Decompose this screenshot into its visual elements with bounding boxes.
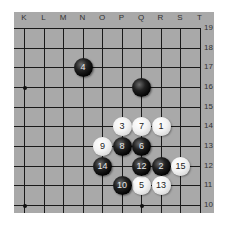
row-label: 19 (204, 23, 220, 33)
row-label: 16 (204, 82, 220, 92)
row-label: 13 (204, 141, 220, 151)
black-stone[interactable]: 4 (74, 58, 93, 77)
row-label: 10 (204, 200, 220, 210)
column-label: Q (134, 13, 148, 23)
row-label: 12 (204, 161, 220, 171)
column-label: K (17, 13, 31, 23)
white-stone[interactable]: 1 (152, 117, 171, 136)
star-point-icon (23, 204, 27, 208)
black-stone[interactable]: 8 (113, 137, 132, 156)
white-stone[interactable]: 13 (152, 176, 171, 195)
column-label: N (76, 13, 90, 23)
grid-line-row-15 (14, 107, 201, 108)
row-label: 15 (204, 102, 220, 112)
star-point-icon (140, 204, 144, 208)
grid-line-row-19 (14, 28, 201, 29)
grid-line-row-18 (14, 48, 201, 49)
column-label: S (173, 13, 187, 23)
black-stone[interactable] (132, 78, 151, 97)
row-label: 11 (204, 180, 220, 190)
grid-line-row-16 (14, 87, 201, 88)
grid-line-row-14 (14, 126, 201, 127)
column-label: T (193, 13, 207, 23)
black-stone[interactable]: 2 (152, 157, 171, 176)
column-label: P (115, 13, 129, 23)
row-label: 14 (204, 121, 220, 131)
column-label: R (154, 13, 168, 23)
grid-line-row-11 (14, 185, 201, 186)
black-stone[interactable]: 10 (113, 176, 132, 195)
row-label: 17 (204, 62, 220, 72)
grid-line-row-10 (14, 205, 201, 206)
grid-line-row-17 (14, 67, 201, 68)
column-label: L (37, 13, 51, 23)
white-stone[interactable]: 9 (93, 137, 112, 156)
column-label: O (95, 13, 109, 23)
white-stone[interactable]: 15 (171, 157, 190, 176)
black-stone[interactable]: 14 (93, 157, 112, 176)
black-stone[interactable]: 12 (132, 157, 151, 176)
column-label: M (56, 13, 70, 23)
row-label: 18 (204, 43, 220, 53)
black-stone[interactable]: 6 (132, 137, 151, 156)
star-point-icon (23, 86, 27, 90)
white-stone[interactable]: 3 (113, 117, 132, 136)
